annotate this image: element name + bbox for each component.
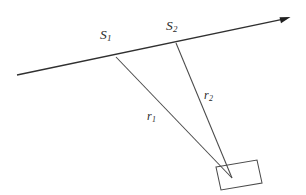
ray-label-r2: r2: [204, 89, 213, 101]
source-label-s2-base: S: [166, 18, 173, 33]
ray-label-r1-base: r: [147, 109, 152, 123]
source-label-s2-sub: 2: [173, 24, 177, 34]
ray-label-r1: r1: [147, 110, 156, 122]
object-rectangle: [216, 160, 262, 190]
diagram-canvas: S1 S2 r1 r2: [0, 0, 306, 195]
source-label-s2: S2: [166, 19, 177, 33]
ray-r2-line: [176, 43, 232, 178]
diagram-vector-layer: [0, 0, 306, 195]
ray-label-r2-sub: 2: [209, 94, 213, 103]
source-label-s1-sub: 1: [107, 33, 111, 43]
source-label-s1: S1: [100, 28, 111, 42]
ray-r1-line: [116, 57, 232, 178]
baseline-axis: [17, 18, 287, 75]
ray-label-r2-base: r: [204, 88, 209, 102]
arrow-head-icon: [280, 17, 291, 23]
ray-label-r1-sub: 1: [152, 115, 156, 124]
source-label-s1-base: S: [100, 27, 107, 42]
